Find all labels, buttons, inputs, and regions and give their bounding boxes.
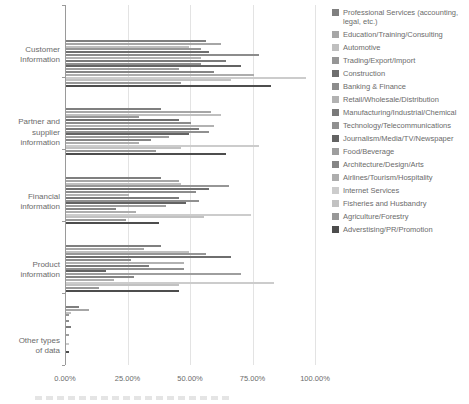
x-axis-tick-label: 0.00% bbox=[43, 374, 87, 383]
category-axis-tick bbox=[62, 365, 65, 366]
bar bbox=[66, 265, 149, 267]
legend-label: Architecture/Design/Arts bbox=[343, 160, 424, 169]
bar bbox=[66, 256, 231, 258]
bar bbox=[66, 312, 71, 314]
legend-item: Education/Training/Consulting bbox=[332, 30, 467, 39]
bar bbox=[66, 205, 166, 207]
category-axis-tick bbox=[62, 293, 65, 294]
legend-item: Professional Services (accounting, legal… bbox=[332, 8, 467, 26]
bar bbox=[66, 54, 259, 56]
bar bbox=[66, 145, 259, 147]
legend-label: Professional Services (accounting, legal… bbox=[343, 8, 467, 26]
bar bbox=[66, 125, 214, 127]
category-label: Other types of data bbox=[2, 336, 60, 357]
legend-swatch-icon bbox=[332, 200, 339, 207]
bar bbox=[66, 253, 206, 255]
legend-item: Internet Services bbox=[332, 186, 467, 195]
bar bbox=[66, 222, 159, 224]
bar bbox=[66, 194, 129, 196]
bar bbox=[66, 245, 161, 247]
bar-chart: Customer InformationPartner and supplier… bbox=[0, 0, 469, 404]
bar bbox=[66, 314, 69, 316]
legend-swatch-icon bbox=[332, 9, 339, 16]
bar bbox=[66, 343, 69, 345]
bar bbox=[66, 108, 161, 110]
bar bbox=[66, 309, 89, 311]
bar bbox=[66, 191, 196, 193]
x-axis-tick-label: 25.00% bbox=[106, 374, 150, 383]
gridline bbox=[315, 5, 316, 365]
legend-swatch-icon bbox=[332, 187, 339, 194]
legend-swatch-icon bbox=[332, 226, 339, 233]
bar bbox=[66, 214, 251, 216]
bar bbox=[66, 200, 199, 202]
x-axis-tick-label: 100.00% bbox=[293, 374, 337, 383]
legend-item: Retail/Wholesale/Distribution bbox=[332, 95, 467, 104]
bar bbox=[66, 197, 179, 199]
bar bbox=[66, 60, 226, 62]
bar bbox=[66, 351, 69, 353]
bar bbox=[66, 57, 201, 59]
category-axis-tick bbox=[62, 221, 65, 222]
legend-item: Automotive bbox=[332, 43, 467, 52]
bar bbox=[66, 216, 204, 218]
bar bbox=[66, 180, 179, 182]
legend-item: Airlines/Tourism/Hospitality bbox=[332, 173, 467, 182]
bar bbox=[66, 48, 201, 50]
legend-item: Journalism/Media/TV/Newspaper bbox=[332, 134, 467, 143]
bar bbox=[66, 268, 184, 270]
legend-label: Food/Beverage bbox=[343, 147, 394, 156]
bar bbox=[66, 128, 199, 130]
bar bbox=[66, 65, 241, 67]
legend-item: Architecture/Design/Arts bbox=[332, 160, 467, 169]
legend-swatch-icon bbox=[332, 83, 339, 90]
bar bbox=[66, 71, 214, 73]
legend-swatch-icon bbox=[332, 148, 339, 155]
bar bbox=[66, 177, 161, 179]
legend-label: Automotive bbox=[343, 43, 381, 52]
bar bbox=[66, 334, 69, 336]
bar bbox=[66, 273, 241, 275]
bar bbox=[66, 136, 169, 138]
bar bbox=[66, 114, 221, 116]
legend-item: Construction bbox=[332, 69, 467, 78]
bar bbox=[66, 248, 144, 250]
legend-item: Manufacturing/Industrial/Chemical bbox=[332, 108, 467, 117]
bar bbox=[66, 284, 179, 286]
legend-swatch-icon bbox=[332, 109, 339, 116]
category-axis-tick bbox=[62, 5, 65, 6]
legend-item: Banking & Finance bbox=[332, 82, 467, 91]
legend-item: Fisheries and Husbandry bbox=[332, 199, 467, 208]
bar bbox=[66, 85, 271, 87]
legend: Professional Services (accounting, legal… bbox=[332, 8, 467, 234]
legend-swatch-icon bbox=[332, 122, 339, 129]
category-axis-tick bbox=[62, 149, 65, 150]
bar bbox=[66, 82, 181, 84]
x-axis-tick-label: 75.00% bbox=[231, 374, 275, 383]
legend-label: Agriculture/Forestry bbox=[343, 212, 408, 221]
bar bbox=[66, 111, 211, 113]
legend-label: Construction bbox=[343, 69, 385, 78]
bar bbox=[66, 51, 209, 53]
bar bbox=[66, 188, 209, 190]
legend-label: Fisheries and Husbandry bbox=[343, 199, 426, 208]
bar bbox=[66, 119, 179, 121]
legend-label: Education/Training/Consulting bbox=[343, 30, 443, 39]
bar bbox=[66, 185, 229, 187]
legend-label: Technology/Telecommunications bbox=[343, 121, 451, 130]
bar bbox=[66, 270, 106, 272]
bar bbox=[66, 153, 226, 155]
x-axis-tick-label: 50.00% bbox=[168, 374, 212, 383]
category-label: Partner and supplier information bbox=[2, 117, 60, 149]
category-label: Financial information bbox=[2, 192, 60, 213]
bar bbox=[66, 77, 306, 79]
bar bbox=[66, 211, 136, 213]
bar bbox=[66, 139, 151, 141]
bar bbox=[66, 320, 69, 322]
legend-item: Trading/Export/Import bbox=[332, 56, 467, 65]
category-label: Customer Information bbox=[2, 45, 60, 66]
legend-swatch-icon bbox=[332, 174, 339, 181]
legend-item: Food/Beverage bbox=[332, 147, 467, 156]
bar bbox=[66, 63, 201, 65]
bar bbox=[66, 259, 131, 261]
